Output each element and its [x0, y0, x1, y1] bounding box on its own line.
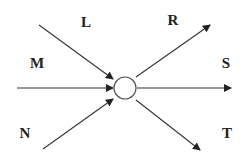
arrow-l — [39, 25, 113, 79]
arrow-t — [136, 100, 200, 150]
label-l: L — [81, 14, 91, 30]
label-n: N — [20, 125, 31, 141]
label-r: R — [168, 12, 179, 28]
label-s: S — [222, 55, 230, 71]
junction-diagram: L M N R S T — [0, 0, 245, 166]
arrow-n — [43, 99, 113, 149]
label-t: T — [222, 125, 232, 141]
arrow-r — [136, 25, 210, 77]
label-m: M — [30, 55, 44, 71]
junction-node — [114, 77, 136, 99]
